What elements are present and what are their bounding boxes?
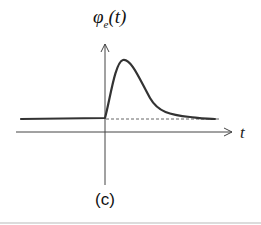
y-axis-label: φe(t) [93,6,126,30]
figure-caption: (c) [95,190,115,210]
bottom-divider [0,222,261,224]
x-axis-label: t [240,123,245,143]
plot-canvas [0,0,261,225]
response-curve [21,60,215,119]
